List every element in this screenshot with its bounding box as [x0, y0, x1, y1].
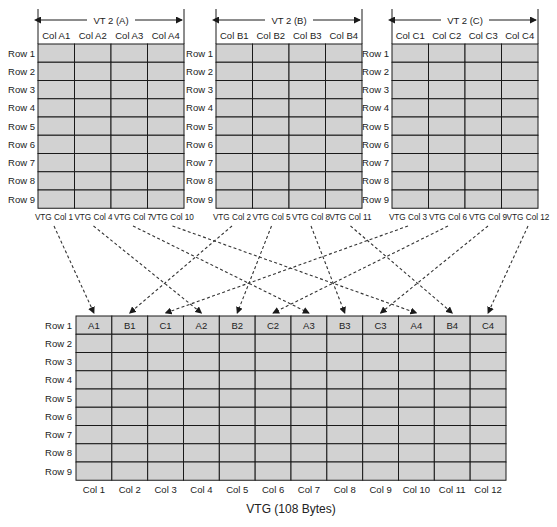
vtg-cell-label: A1 — [88, 320, 100, 331]
grid-cell — [111, 117, 148, 135]
row-label: Row 1 — [8, 48, 35, 59]
grid-cell — [216, 190, 253, 208]
grid-cell — [255, 426, 291, 444]
vt-group-title: VT 2 (A) — [93, 15, 128, 26]
vt-group-title: VT 2 (C) — [447, 15, 483, 26]
grid-cell — [291, 389, 327, 407]
grid-cell — [429, 172, 466, 190]
grid-cell — [429, 99, 466, 117]
grid-cell — [289, 117, 326, 135]
grid-cell — [392, 99, 429, 117]
grid-cell — [253, 99, 290, 117]
grid-cell — [38, 190, 75, 208]
vtg-column-label: Col 5 — [226, 484, 248, 495]
vtg-cell-label: B1 — [124, 320, 136, 331]
column-header: Col A4 — [152, 30, 180, 41]
grid-cell — [399, 407, 435, 425]
grid-cell — [148, 154, 185, 172]
grid-cell — [216, 117, 253, 135]
grid-cell — [326, 172, 363, 190]
row-label: Row 5 — [8, 121, 35, 132]
vtg-cell-label: A2 — [196, 320, 208, 331]
grid-cell — [429, 81, 466, 99]
grid-cell — [399, 462, 435, 480]
row-label: Row 6 — [45, 411, 72, 422]
row-label: Row 7 — [186, 157, 213, 168]
row-label: Row 3 — [186, 84, 213, 95]
column-header: Col C3 — [469, 30, 498, 41]
grid-cell — [75, 62, 112, 80]
grid-cell — [216, 62, 253, 80]
grid-cell — [326, 62, 363, 80]
grid-cell — [184, 371, 220, 389]
grid-cell — [502, 81, 539, 99]
vtg-column-label: VTG Col 10 — [151, 213, 194, 222]
grid-cell — [429, 135, 466, 153]
row-label: Row 4 — [186, 102, 213, 113]
vtg-column-label: VTG Col 3 — [389, 213, 428, 222]
mapping-arrow — [311, 226, 345, 313]
grid-cell — [184, 353, 220, 371]
grid-cell — [112, 334, 148, 352]
grid-cell — [75, 44, 112, 62]
row-label: Row 5 — [362, 121, 389, 132]
grid-cell — [38, 81, 75, 99]
vtg-column-label: Col 6 — [262, 484, 284, 495]
vt-group-title: VT 2 (B) — [271, 15, 306, 26]
grid-cell — [327, 444, 363, 462]
vtg-column-label: VTG Col 2 — [213, 213, 252, 222]
row-label: Row 6 — [362, 139, 389, 150]
grid-cell — [399, 371, 435, 389]
vtg-column-label: Col 12 — [474, 484, 501, 495]
grid-cell — [253, 190, 290, 208]
row-label: Row 2 — [8, 66, 35, 77]
grids — [38, 9, 538, 480]
vtg-column-label: Col 3 — [154, 484, 176, 495]
grid-cell — [470, 407, 506, 425]
vtg-grid — [76, 316, 506, 480]
grid-cell — [434, 371, 470, 389]
mapping-arrow — [237, 226, 271, 313]
grid-cell — [38, 99, 75, 117]
grid-cell — [75, 99, 112, 117]
vtg-column-label: Col 11 — [439, 484, 466, 495]
grid-cell — [148, 407, 184, 425]
grid-cell — [326, 190, 363, 208]
vtg-column-label: VTG Col 6 — [429, 213, 468, 222]
grid-cell — [465, 190, 502, 208]
grid-cell — [148, 334, 184, 352]
grid-cell — [392, 44, 429, 62]
row-label: Row 3 — [45, 356, 72, 367]
vtg-cell-label: C3 — [375, 320, 387, 331]
grid-cell — [502, 62, 539, 80]
grid-cell — [392, 62, 429, 80]
grid-cell — [75, 117, 112, 135]
row-label: Row 2 — [45, 338, 72, 349]
grid-cell — [255, 389, 291, 407]
grid-cell — [363, 389, 399, 407]
grid-cell — [76, 353, 112, 371]
grid-cell — [434, 334, 470, 352]
grid-cell — [429, 190, 466, 208]
grid-cell — [76, 389, 112, 407]
vtg-column-label: VTG Col 12 — [507, 213, 550, 222]
grid-cell — [326, 117, 363, 135]
row-label: Row 9 — [186, 194, 213, 205]
grid-cell — [429, 154, 466, 172]
vtg-column-label: Col 10 — [403, 484, 430, 495]
column-header: Col A2 — [79, 30, 107, 41]
grid-cell — [255, 407, 291, 425]
grid-cell — [38, 62, 75, 80]
row-label: Row 5 — [186, 121, 213, 132]
grid-cell — [112, 389, 148, 407]
grid-cell — [184, 389, 220, 407]
mapping-arrow — [173, 226, 417, 313]
row-label: Row 7 — [8, 157, 35, 168]
grid-cell — [184, 444, 220, 462]
grid-cell — [399, 426, 435, 444]
vtg-column-label: Col 7 — [298, 484, 320, 495]
row-label: Row 3 — [8, 84, 35, 95]
grid-cell — [216, 99, 253, 117]
grid-cell — [253, 135, 290, 153]
grid-cell — [291, 462, 327, 480]
